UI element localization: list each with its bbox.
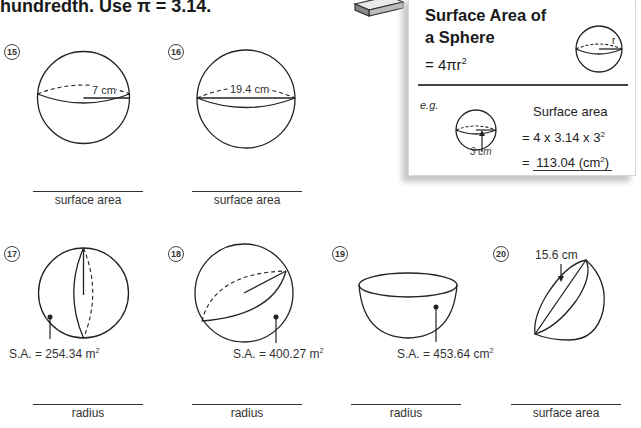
question-20-answer-label: surface area xyxy=(511,406,621,420)
question-15-answer-field[interactable] xyxy=(33,191,143,192)
question-18-given: S.A. = 400.27 m2 xyxy=(233,347,323,361)
question-18-answer-label: radius xyxy=(192,406,302,420)
box-tab-decoration xyxy=(355,0,403,10)
formula-box-title: Surface Area of a Sphere xyxy=(425,4,546,48)
question-16-answer-field[interactable] xyxy=(192,191,302,192)
question-18-answer-field[interactable] xyxy=(192,404,302,405)
question-15-radius-label: 7 cm xyxy=(92,84,116,96)
instruction-text: hundredth. Use π = 3.14. xyxy=(0,0,211,17)
question-15-number: 15 xyxy=(4,44,20,60)
example-result: 113.04 (cm2) xyxy=(533,155,612,171)
question-18-number: 18 xyxy=(168,246,184,262)
question-20-hemisphere-icon xyxy=(531,256,609,342)
q17-given-text: S.A. = 254.34 m xyxy=(9,347,95,361)
question-19-hemisphere-icon xyxy=(358,272,458,342)
title-line-2: a Sphere xyxy=(425,26,546,48)
formula-main: = 4πr xyxy=(425,56,462,73)
step1-exponent: 2 xyxy=(600,130,604,139)
question-18-sphere-icon xyxy=(194,243,294,343)
radius-label: r xyxy=(612,35,615,46)
step2-prefix: = xyxy=(522,155,530,170)
question-15-sphere-icon: 7 cm xyxy=(36,50,131,145)
example-step-1: = 4 x 3.14 x 32 xyxy=(522,130,605,145)
question-19-number: 19 xyxy=(332,246,348,262)
step2-suffix: ) xyxy=(605,155,609,170)
step1-text: = 4 x 3.14 x 3 xyxy=(522,130,600,145)
question-19-given: S.A. = 453.64 cm2 xyxy=(397,347,493,361)
formula-exponent: 2 xyxy=(462,56,467,66)
question-16-sphere-icon: 19.4 cm xyxy=(196,47,296,151)
question-20-number: 20 xyxy=(493,246,509,262)
q17-given-exponent: 2 xyxy=(95,347,99,354)
example-step-2: = 113.04 (cm2) xyxy=(522,155,612,170)
question-17-sphere-icon xyxy=(36,247,131,339)
example-heading: Surface area xyxy=(533,104,607,119)
q19-given-text: S.A. = 453.64 cm xyxy=(397,347,489,361)
question-19-answer-field[interactable] xyxy=(351,404,461,405)
question-17-answer-label: radius xyxy=(33,406,143,420)
question-16-number: 16 xyxy=(168,44,184,60)
step2-value: 113.04 (cm xyxy=(536,155,600,170)
formula-text: = 4πr2 xyxy=(425,56,467,73)
question-17-answer-field[interactable] xyxy=(33,404,143,405)
question-20-diameter-label: 15.6 cm xyxy=(535,248,578,262)
question-15-answer-label: surface area xyxy=(33,193,143,207)
formula-divider xyxy=(418,84,628,86)
example-radius-label: 3 cm xyxy=(470,146,492,157)
question-16-answer-label: surface area xyxy=(192,193,302,207)
title-line-1: Surface Area of xyxy=(425,4,546,26)
question-17-given: S.A. = 254.34 m2 xyxy=(9,347,99,361)
sphere-diagram-icon: r xyxy=(571,25,627,73)
question-20-answer-field[interactable] xyxy=(511,404,621,405)
q18-given-exponent: 2 xyxy=(319,347,323,354)
example-label: e.g. xyxy=(420,99,438,111)
question-17-number: 17 xyxy=(4,246,20,262)
question-19-answer-label: radius xyxy=(351,406,461,420)
q19-given-exponent: 2 xyxy=(489,347,493,354)
question-16-diameter-label: 19.4 cm xyxy=(230,83,269,95)
q18-given-text: S.A. = 400.27 m xyxy=(233,347,319,361)
example-sphere-icon: 3 cm xyxy=(448,108,504,160)
